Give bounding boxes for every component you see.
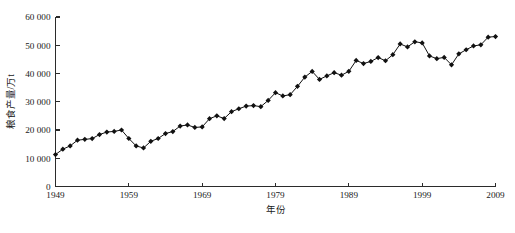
x-tick-label: 1969 <box>193 190 212 200</box>
data-point-marker <box>434 56 439 61</box>
data-point-marker <box>361 61 366 66</box>
y-axis-title: 粮食产量/万t <box>5 74 16 130</box>
data-point-marker <box>185 122 190 127</box>
data-point-marker <box>251 103 256 108</box>
y-tick-label: 40 000 <box>25 69 51 79</box>
data-point-marker <box>97 132 102 137</box>
x-axis-tick-group: 1949195919691979198919992009 <box>46 183 505 200</box>
grain-output-line-chart: 010 00020 00030 00040 00050 00060 000 19… <box>0 0 515 233</box>
data-point-marker <box>368 59 373 64</box>
data-point-marker <box>112 129 117 134</box>
x-axis-title: 年份 <box>266 204 286 215</box>
data-point-marker <box>339 73 344 78</box>
data-point-marker <box>464 47 469 52</box>
data-point-marker <box>82 137 87 142</box>
data-point-marker <box>376 55 381 60</box>
data-point-marker <box>244 104 249 109</box>
data-point-marker <box>90 136 95 141</box>
x-tick-label: 1959 <box>120 190 139 200</box>
data-point-marker <box>214 113 219 118</box>
data-point-marker <box>324 73 329 78</box>
data-point-marker <box>236 106 241 111</box>
data-point-marker <box>354 58 359 63</box>
x-tick-label: 2009 <box>486 190 505 200</box>
series-markers-grain-output <box>53 34 498 157</box>
figure-caption <box>0 224 515 233</box>
y-tick-label: 20 000 <box>25 125 51 135</box>
y-tick-label: 30 000 <box>25 97 51 107</box>
x-tick-label: 1949 <box>46 190 65 200</box>
x-tick-label: 1979 <box>266 190 285 200</box>
figure-container: 010 00020 00030 00040 00050 00060 000 19… <box>0 0 515 233</box>
y-tick-label: 10 000 <box>25 154 51 164</box>
data-point-marker <box>493 34 498 39</box>
data-point-marker <box>192 125 197 130</box>
data-point-marker <box>427 53 432 58</box>
y-tick-label: 60 000 <box>25 12 51 22</box>
data-point-marker <box>471 43 476 48</box>
data-point-marker <box>332 70 337 75</box>
y-tick-label: 50 000 <box>25 41 51 51</box>
axis-lines <box>56 17 496 187</box>
data-point-marker <box>420 40 425 45</box>
x-tick-label: 1989 <box>340 190 359 200</box>
data-point-marker <box>280 93 285 98</box>
y-axis-tick-group: 010 00020 00030 00040 00050 00060 000 <box>25 12 59 192</box>
x-tick-label: 1999 <box>413 190 432 200</box>
data-point-marker <box>104 129 109 134</box>
